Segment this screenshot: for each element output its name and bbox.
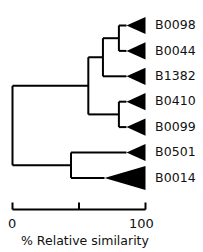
tip-label-b1382: B1382 <box>155 70 196 83</box>
leaf-wedge-b0014 <box>105 166 146 190</box>
leaf-wedge-b0099 <box>127 119 146 136</box>
x-axis <box>13 203 146 210</box>
leaf-wedges <box>105 17 146 190</box>
tip-label-b0501: B0501 <box>155 146 196 159</box>
tip-label-b0099: B0099 <box>155 121 196 134</box>
axis-tick-label-0: 0 <box>8 217 16 230</box>
leaf-wedge-b1382 <box>127 68 146 85</box>
dendrogram-figure: B0098 B0044 B1382 B0410 B0099 B0501 B001… <box>0 0 203 252</box>
tip-label-b0098: B0098 <box>155 19 196 32</box>
leaf-wedge-b0410 <box>127 93 146 110</box>
leaf-wedge-b0044 <box>127 42 146 59</box>
tip-label-b0410: B0410 <box>155 95 196 108</box>
axis-tick-label-100: 100 <box>129 217 154 230</box>
leaf-wedge-b0501 <box>127 144 146 161</box>
tip-label-b0044: B0044 <box>155 45 196 58</box>
leaf-wedge-b0098 <box>127 17 146 34</box>
tip-label-b0014: B0014 <box>155 172 196 185</box>
tree-branch-lines <box>13 26 127 178</box>
axis-title: % Relative similarity <box>21 235 149 248</box>
